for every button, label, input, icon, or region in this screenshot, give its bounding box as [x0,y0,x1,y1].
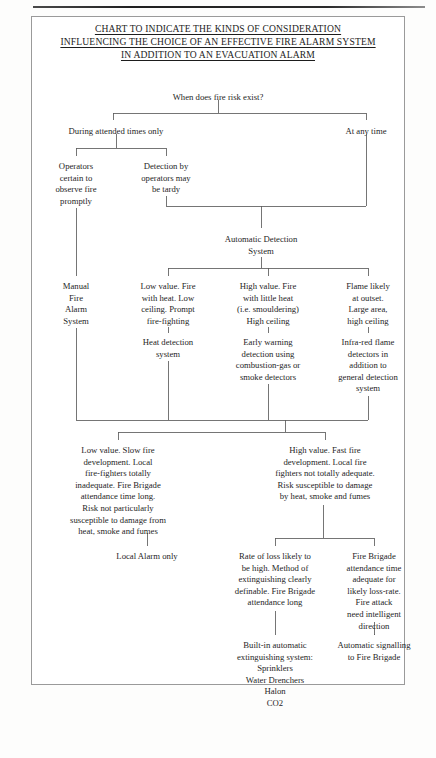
node-auto-signalling: Automatic signalling to Fire Brigade [320,640,428,663]
node-high-value-fast: High value. Fast fire development. Local… [244,445,406,503]
node-auto-detection: Automatic Detection System [199,234,323,257]
node-local-alarm: Local Alarm only [92,551,202,563]
page-top-rule [33,6,425,8]
node-built-in-system: Built-in automatic extinguishing system:… [215,640,335,710]
node-brigade-adequate: Fire Brigade attendance time adequate fo… [324,551,424,632]
node-high-value-heat: High value. Fire with little heat (i.e. … [219,281,317,327]
node-rate-of-loss: Rate of loss likely to be high. Method o… [217,551,333,609]
node-attended: During attended times only [41,126,191,138]
node-flame-outset: Flame likely at outset. Large area, high… [326,281,410,327]
node-operators-certain: Operators certain to observe fire prompt… [39,161,113,207]
node-root: When does fire risk exist? [133,92,303,104]
node-detection-tardy: Detection by operators may be tardy [124,161,208,196]
node-anytime: At any time [327,126,405,138]
chart-title-line-1: CHART TO INDICATE THE KINDS OF CONSIDERA… [36,22,400,35]
node-early-warning: Early warning detection using combustion… [218,337,318,383]
chart-title: CHART TO INDICATE THE KINDS OF CONSIDERA… [36,22,400,62]
chart-page: CHART TO INDICATE THE KINDS OF CONSIDERA… [0,0,436,758]
chart-title-line-3: IN ADDITION TO AN EVACUATION ALARM [36,48,400,61]
node-low-value-slow: Low value. Slow fire development. Local … [38,445,198,538]
node-low-value-heat: Low value. Fire with heat. Low ceiling. … [122,281,214,327]
node-heat-detection: Heat detection system [122,337,214,360]
node-manual-alarm: Manual Fire Alarm System [43,281,109,327]
node-infra-red: Infra-red flame detectors in addition to… [321,337,415,395]
chart-title-line-2: INFLUENCING THE CHOICE OF AN EFFECTIVE F… [36,35,400,48]
